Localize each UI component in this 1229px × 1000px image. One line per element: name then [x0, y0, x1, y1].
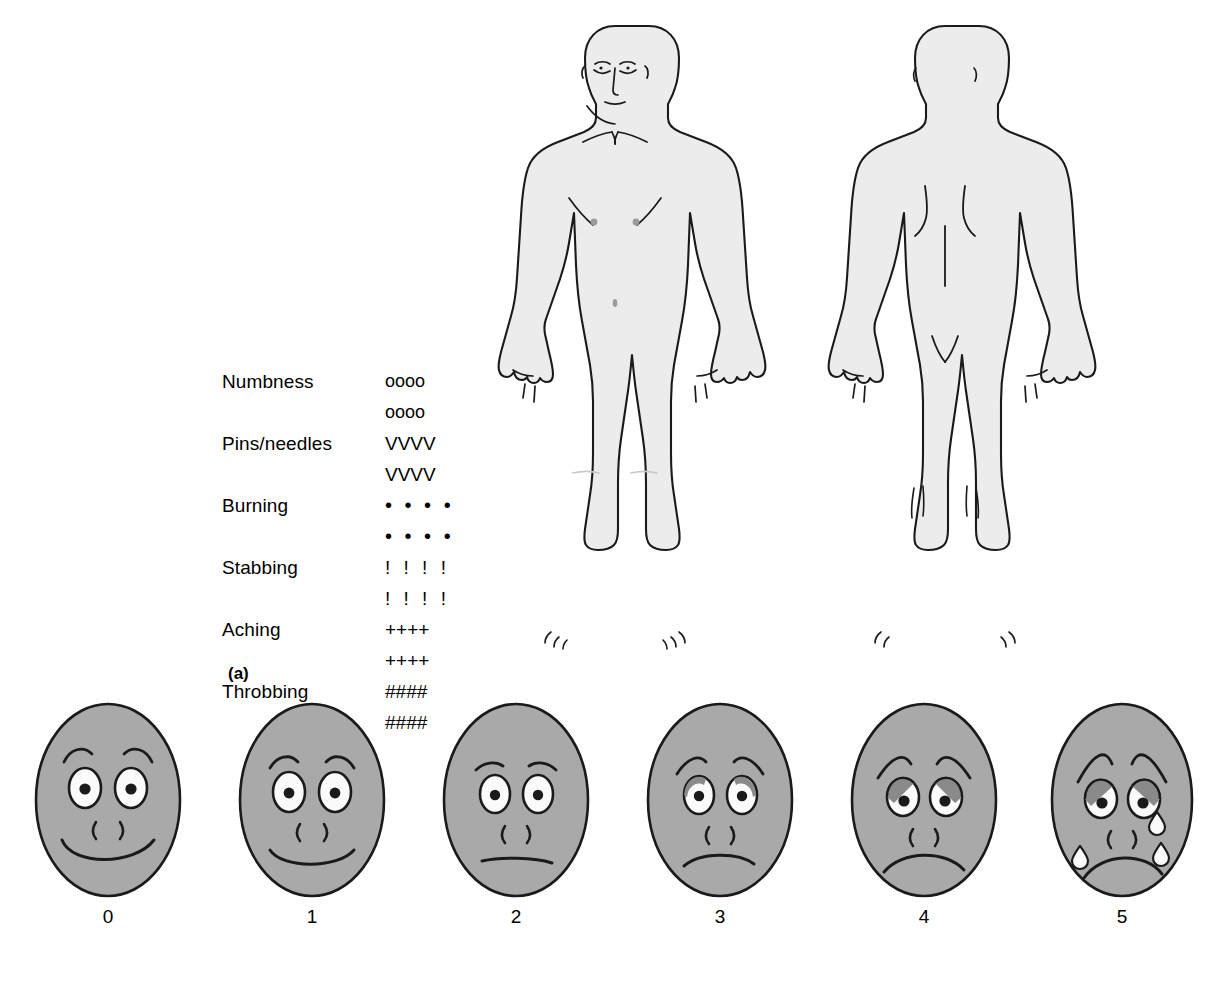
face-rating-3[interactable]: 3: [630, 700, 810, 945]
legend-symbols-stabbing-line1: ! ! ! !: [385, 552, 450, 583]
legend-row-aching: Aching ++++: [222, 614, 462, 645]
legend-symbols-pins-needles-line1: VVVV: [385, 428, 436, 459]
legend-row-pins-needles: Pins/needles VVVV: [222, 428, 462, 459]
legend-row-aching-line2: ++++: [222, 645, 462, 676]
legend-row-numbness-line2: oooo: [222, 397, 462, 428]
legend-symbols-stabbing-line2: ! ! ! !: [385, 583, 450, 614]
legend-label-stabbing: Stabbing: [222, 552, 298, 583]
legend-label-pins-needles: Pins/needles: [222, 428, 332, 459]
face-rating-1[interactable]: 1: [222, 700, 402, 945]
face-rating-2[interactable]: 2: [426, 700, 606, 945]
panel-a-body-chart: Numbness oooo oooo Pins/needles VVVV VVV…: [0, 0, 1229, 700]
pain-symbol-legend: Numbness oooo oooo Pins/needles VVVV VVV…: [222, 366, 462, 738]
legend-symbols-pins-needles-line2: VVVV: [385, 459, 436, 490]
legend-row-stabbing-line2: ! ! ! !: [222, 583, 462, 614]
panel-b-faces-scale: 0 1: [0, 700, 1229, 1000]
legend-label-aching: Aching: [222, 614, 281, 645]
legend-row-stabbing: Stabbing ! ! ! !: [222, 552, 462, 583]
face-rating-4[interactable]: 4: [834, 700, 1014, 945]
legend-symbols-aching-line1: ++++: [385, 614, 429, 645]
body-figures-group: [455, 18, 1115, 658]
faces-pain-rating-scale: 0 1: [0, 700, 1229, 930]
face-number-4: 4: [834, 906, 1014, 928]
legend-row-burning-line2: • • • •: [222, 521, 462, 552]
legend-row-pins-needles-line2: VVVV: [222, 459, 462, 490]
legend-row-numbness: Numbness oooo: [222, 366, 462, 397]
face-number-3: 3: [630, 906, 810, 928]
face-number-2: 2: [426, 906, 606, 928]
legend-symbols-numbness-line2: oooo: [385, 397, 425, 428]
face-number-0: 0: [18, 906, 198, 928]
legend-symbols-numbness-line1: oooo: [385, 366, 425, 397]
legend-symbols-aching-line2: ++++: [385, 645, 429, 676]
face-rating-5[interactable]: 5: [1032, 700, 1212, 945]
legend-symbols-burning-line2: • • • •: [385, 521, 454, 552]
face-number-1: 1: [222, 906, 402, 928]
body-diagram-front[interactable]: [455, 18, 775, 658]
legend-label-burning: Burning: [222, 490, 288, 521]
legend-label-numbness: Numbness: [222, 366, 314, 397]
legend-row-burning: Burning • • • •: [222, 490, 462, 521]
face-number-5: 5: [1032, 906, 1212, 928]
legend-symbols-burning-line1: • • • •: [385, 490, 454, 521]
body-diagram-back[interactable]: [785, 18, 1105, 658]
face-rating-0[interactable]: 0: [18, 700, 198, 945]
panel-label-a: (a): [228, 664, 249, 684]
